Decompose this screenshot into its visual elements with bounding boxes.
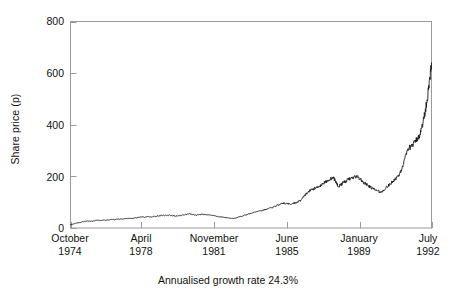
y-tick-label-800: 800	[30, 16, 64, 26]
x-tick-month-1992: July	[383, 232, 456, 245]
chart-caption: Annualised growth rate 24.3%	[0, 274, 456, 286]
plot-frame	[71, 22, 432, 229]
share-price-chart-figure: Share price (p) 800 600 400 200 0 Octobe…	[0, 0, 456, 297]
x-tick-label-1992: July 1992	[383, 232, 456, 258]
y-tick-label-200: 200	[30, 172, 64, 182]
x-tick-year-1992: 1992	[383, 245, 456, 258]
y-tick-label-400: 400	[30, 120, 64, 130]
y-axis-title: Share price (p)	[9, 64, 21, 194]
y-tick-label-600: 600	[30, 68, 64, 78]
